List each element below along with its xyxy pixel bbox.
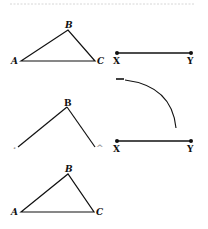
open-angle-label-a: .: [13, 141, 16, 151]
geometry-construction-diagram: A B C X Y . B ^ X Y A B C: [0, 0, 208, 229]
triangle-bottom-shape: [21, 174, 94, 212]
open-angle-right-side: [67, 107, 95, 147]
segment-top-label-x: X: [113, 56, 120, 66]
open-angle-label-c: ^: [96, 143, 104, 153]
triangle-top: A B C: [10, 20, 105, 66]
open-angle: . B ^: [13, 98, 104, 153]
triangle-top-shape: [21, 30, 95, 61]
segment-middle-label-y: Y: [186, 144, 194, 154]
segment-middle-point-x: [115, 139, 119, 143]
triangle-bottom-label-a: A: [10, 207, 18, 217]
triangle-top-label-a: A: [10, 56, 18, 66]
segment-top-label-y: Y: [186, 56, 194, 66]
segment-middle-label-x: X: [113, 144, 120, 154]
open-angle-left-side: [18, 107, 67, 147]
segment-top-point-y: [189, 51, 193, 55]
triangle-top-label-b: B: [64, 20, 73, 30]
segment-top: X Y: [113, 51, 194, 66]
triangle-bottom: A B C: [10, 164, 104, 217]
segment-top-point-x: [115, 51, 119, 55]
construction-arc: [116, 79, 176, 128]
segment-middle: X Y: [113, 139, 194, 154]
open-angle-label-b: B: [64, 98, 72, 108]
triangle-bottom-label-c: C: [96, 207, 104, 217]
arc-curve: [125, 80, 176, 128]
triangle-bottom-label-b: B: [64, 164, 73, 174]
segment-middle-point-y: [189, 139, 193, 143]
triangle-top-label-c: C: [97, 56, 105, 66]
